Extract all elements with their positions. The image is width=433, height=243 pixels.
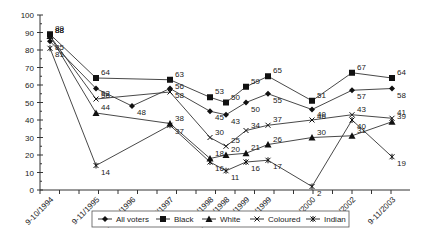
data-label: 64: [397, 68, 406, 77]
series-white: [47, 33, 396, 162]
data-label: 44: [101, 103, 110, 112]
y-tick-label: 20: [25, 151, 34, 160]
triangle-marker-icon: [389, 118, 396, 125]
square-marker-icon: [309, 98, 315, 104]
x-tick-label: 9-11/2003: [366, 195, 398, 227]
x-marker-icon: [224, 144, 229, 149]
triangle-marker-icon: [93, 110, 100, 117]
y-tick-label: 80: [25, 46, 34, 55]
data-label: 48: [137, 108, 146, 117]
square-marker-icon: [243, 84, 249, 90]
data-label: 59: [251, 77, 260, 86]
square-marker-icon: [93, 75, 99, 81]
data-label: 45: [215, 113, 224, 122]
diamond-marker-icon: [129, 103, 135, 109]
diamond-marker-icon: [265, 91, 271, 97]
x-marker-icon: [208, 135, 213, 140]
square-marker-icon: [349, 70, 355, 76]
y-tick-label: 40: [25, 116, 34, 125]
data-label: 38: [175, 114, 184, 123]
diamond-marker-icon: [389, 86, 395, 92]
data-label: 43: [231, 117, 240, 126]
y-tick-label: 90: [25, 29, 34, 38]
data-label: 50: [231, 93, 240, 102]
legend-label: Coloured: [268, 215, 300, 224]
data-label: 19: [397, 159, 406, 168]
data-label: 14: [101, 168, 110, 177]
legend-label: Indian: [324, 215, 346, 224]
square-marker-icon: [207, 94, 213, 100]
y-tick-label: 50: [25, 99, 34, 108]
data-label: 52: [101, 89, 110, 98]
data-label: 37: [175, 127, 184, 136]
triangle-marker-icon: [243, 150, 250, 157]
data-label: 11: [231, 173, 240, 182]
square-marker-icon: [223, 100, 229, 106]
y-tick-label: 70: [25, 64, 34, 73]
asterisk-marker-icon: [350, 117, 355, 123]
asterisk-marker-icon: [310, 184, 315, 190]
asterisk-marker-icon: [94, 163, 99, 169]
data-label: 43: [357, 105, 366, 114]
data-label: 26: [273, 135, 282, 144]
asterisk-marker-icon: [390, 154, 395, 160]
data-label: 53: [215, 87, 224, 96]
data-label: 67: [357, 63, 366, 72]
data-label: 40: [317, 110, 326, 119]
data-label: 30: [317, 128, 326, 137]
diamond-marker-icon: [349, 87, 355, 93]
data-label: 18: [215, 149, 224, 158]
asterisk-marker-icon: [208, 159, 213, 165]
data-labels: 8558485845435055465758896463535059655167…: [55, 24, 406, 197]
data-label: 2: [317, 189, 322, 198]
legend-label: Black: [174, 215, 195, 224]
y-tick-label: 100: [21, 11, 35, 20]
data-label: 56: [175, 82, 184, 91]
legend: All votersBlackWhiteColouredIndian: [92, 211, 349, 227]
data-label: 30: [215, 128, 224, 137]
diamond-marker-icon: [207, 108, 213, 114]
square-marker-icon: [160, 216, 166, 222]
y-tick-label: 60: [25, 81, 34, 90]
data-label: 16: [215, 164, 224, 173]
square-marker-icon: [389, 75, 395, 81]
data-label: 17: [273, 162, 282, 171]
data-label: 55: [273, 96, 282, 105]
legend-label: White: [220, 215, 241, 224]
data-label: 88: [55, 26, 64, 35]
line-chart: 01020304050607080901009-10/19949-11/1995…: [0, 0, 433, 243]
y-tick-label: 30: [25, 134, 34, 143]
data-label: 20: [231, 145, 240, 154]
asterisk-marker-icon: [224, 168, 229, 174]
data-label: 41: [397, 108, 406, 117]
data-label: 25: [231, 136, 240, 145]
data-label: 50: [251, 105, 260, 114]
data-label: 81: [55, 50, 64, 59]
data-label: 57: [357, 92, 366, 101]
data-label: 21: [251, 143, 260, 152]
y-tick-label: 0: [30, 186, 35, 195]
data-label: 40: [357, 122, 366, 131]
data-label: 16: [251, 164, 260, 173]
diamond-marker-icon: [243, 100, 249, 106]
data-label: 63: [175, 70, 184, 79]
diamond-marker-icon: [309, 107, 315, 113]
data-label: 51: [317, 91, 326, 100]
asterisk-marker-icon: [48, 45, 53, 51]
square-marker-icon: [167, 77, 173, 83]
data-label: 65: [273, 66, 282, 75]
data-label: 64: [101, 68, 110, 77]
data-label: 58: [175, 91, 184, 100]
x-tick-label: 9-10/1994: [24, 195, 56, 227]
square-marker-icon: [265, 73, 271, 79]
data-label: 37: [273, 115, 282, 124]
y-tick-label: 10: [25, 169, 34, 178]
data-label: 34: [251, 121, 260, 130]
legend-label: All voters: [116, 215, 149, 224]
data-label: 58: [397, 91, 406, 100]
